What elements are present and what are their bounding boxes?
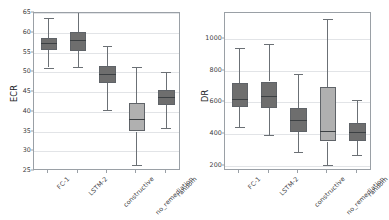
whisker-lower [166,105,167,128]
x-tick-mark [47,170,48,173]
whisker-cap-upper [294,74,304,75]
y-tick-label: 25 [1,167,31,173]
gridline [34,112,179,113]
x-tick-label-fc-1: FC-1 [246,175,261,190]
whisker-upper [78,12,79,32]
y-tick-label: 60 [1,29,31,35]
x-tick-label-constructive: constructive [312,175,345,208]
x-tick-mark [356,170,357,173]
y-tick-label: 55 [1,48,31,54]
y-tick-label: 30 [1,147,31,153]
whisker-upper [327,19,328,87]
x-tick-mark [297,170,298,173]
x-tick-label-fc-1: FC-1 [55,175,70,190]
y-tick-label: 65 [1,9,31,15]
whisker-cap-upper [132,67,142,68]
panel-dr: DR 2004006008001000 FC-1LSTM-2constructi… [191,0,381,220]
whisker-cap-upper [352,100,362,101]
gridline [225,71,370,72]
y-tick-label: 800 [192,66,222,72]
gridline [34,151,179,152]
whisker-cap-lower [73,67,83,68]
whisker-lower [357,141,358,155]
y-tick-label: 400 [192,130,222,136]
whisker-cap-lower [352,155,362,156]
y-tick-label: 600 [192,98,222,104]
y-axis-ticks-ecr: 253035404550556065 [0,12,31,170]
box-constructive [99,66,116,83]
whisker-cap-lower [44,68,54,69]
whisker-upper [357,100,358,124]
box-no-remediation [129,103,146,131]
median-line [349,132,366,133]
whisker-cap-upper [161,72,171,73]
x-tick-mark [106,170,107,173]
median-line [158,97,175,98]
whisker-cap-lower [264,135,274,136]
whisker-cap-lower [323,165,333,166]
whisker-upper [136,67,137,103]
whisker-lower [327,142,328,165]
x-tick-mark [326,170,327,173]
y-tick-label: 45 [1,88,31,94]
x-tick-label-lstm-2: LSTM-2 [87,175,109,197]
box-lstm-2 [261,82,278,109]
gridline [34,13,179,14]
median-line [232,99,249,100]
whisker-cap-lower [235,127,245,128]
y-tick-label: 35 [1,127,31,133]
median-line [70,40,87,41]
whisker-lower [78,51,79,67]
whisker-lower [269,108,270,135]
x-axis-ticks-ecr: FC-1LSTM-2constructiveno_remediationrand… [33,170,180,220]
gridline [225,39,370,40]
median-line [41,43,58,44]
whisker-cap-lower [294,152,304,153]
whisker-cap-upper [323,19,333,20]
whisker-upper [298,74,299,108]
gridline [225,166,370,167]
y-tick-label: 40 [1,108,31,114]
x-tick-label-lstm-2: LSTM-2 [278,175,300,197]
median-line [129,119,146,120]
whisker-lower [239,107,240,127]
gridline [34,132,179,133]
median-line [261,96,278,97]
whisker-cap-lower [103,110,113,111]
plot-area-dr [224,12,371,170]
whisker-cap-upper [235,48,245,49]
median-line [320,131,337,132]
whisker-upper [107,46,108,66]
y-tick-label: 50 [1,68,31,74]
box-fc-1 [232,83,249,107]
whisker-upper [269,44,270,81]
y-tick-label: 200 [192,162,222,168]
x-tick-mark [268,170,269,173]
x-axis-ticks-dr: FC-1LSTM-2constructiveno_remediationrand… [224,170,371,220]
median-line [99,74,116,75]
gridline [34,33,179,34]
whisker-upper [48,18,49,39]
whisker-lower [48,50,49,68]
whisker-lower [136,132,137,165]
median-line [290,120,307,121]
whisker-cap-lower [132,165,142,166]
whisker-cap-upper [264,44,274,45]
x-tick-mark [238,170,239,173]
whisker-cap-upper [73,12,83,13]
y-tick-label: 1000 [192,34,222,40]
plot-area-ecr [33,12,180,170]
x-tick-mark [165,170,166,173]
box-no-remediation [320,87,337,142]
box-lstm-2 [70,32,87,51]
whisker-cap-upper [44,18,54,19]
whisker-cap-lower [161,128,171,129]
whisker-cap-upper [103,46,113,47]
x-tick-mark [135,170,136,173]
whisker-upper [166,72,167,90]
whisker-lower [298,132,299,152]
whisker-lower [107,83,108,110]
y-axis-ticks-dr: 2004006008001000 [191,12,222,170]
x-tick-label-constructive: constructive [121,175,154,208]
